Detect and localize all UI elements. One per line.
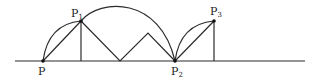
point-p — [41, 59, 45, 63]
label-p: P — [38, 65, 46, 77]
label-p3: P3 — [210, 5, 222, 19]
point-p3 — [212, 19, 216, 23]
point-p2 — [173, 59, 177, 63]
diagram-canvas: P P1 P2 P3 — [0, 0, 317, 77]
label-p2: P2 — [171, 65, 183, 77]
zigzag-p1-p2 — [81, 21, 175, 61]
label-p1: P1 — [71, 7, 83, 21]
